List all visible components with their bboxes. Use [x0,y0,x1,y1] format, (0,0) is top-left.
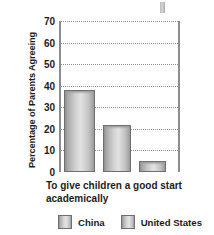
gridline [61,21,178,22]
bar [103,125,131,172]
legend-item-label: United States [141,217,202,228]
y-axis-line [59,21,61,172]
gridline [61,43,178,44]
bar [64,90,95,172]
chart-legend: China United States [58,215,202,229]
legend-swatch-icon [58,215,72,229]
legend-item-china[interactable]: China [58,215,105,229]
gridline [61,86,178,87]
y-axis-tick-label: 10 [33,145,55,156]
legend-item-label: China [78,217,105,228]
scan-artifact-mark [160,2,165,13]
gridline [61,64,178,65]
y-axis-tick-labels: 010203040506070 [33,21,55,172]
y-axis-tick-label: 60 [33,37,55,48]
plot-area [59,21,180,172]
y-axis-tick-label: 0 [33,167,55,178]
y-axis-tick-label: 20 [33,123,55,134]
x-axis-category-label: To give children a good start academical… [46,180,206,205]
y-axis-tick-label: 70 [33,16,55,27]
plot-right-border [178,21,180,172]
chart-figure: Percentage of Parents Agreeing 010203040… [0,0,214,235]
bar [139,161,166,172]
y-axis-tick-label: 40 [33,80,55,91]
legend-swatch-icon [121,215,135,229]
legend-item-united-states[interactable]: United States [121,215,202,229]
y-axis-tick-label: 50 [33,59,55,70]
y-axis-tick-label: 30 [33,102,55,113]
